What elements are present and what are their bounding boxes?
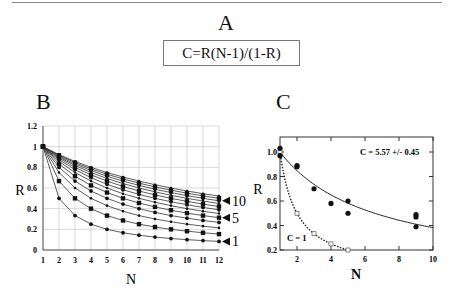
y-tick: 1.0 <box>267 148 277 157</box>
data-point <box>413 214 418 219</box>
y-tick: 0.2 <box>267 246 277 255</box>
x-axis-label: N <box>351 267 361 282</box>
data-point <box>277 146 282 151</box>
data-point <box>294 164 299 169</box>
y-tick: 0.8 <box>267 173 277 182</box>
data-point <box>345 198 350 203</box>
y-axis-label: R <box>253 182 263 197</box>
data-point <box>277 153 282 158</box>
data-point <box>311 186 316 191</box>
x-tick: 10 <box>429 255 437 264</box>
data-point <box>328 201 333 206</box>
x-tick: 6 <box>363 255 367 264</box>
data-point <box>345 211 350 216</box>
fit-line <box>280 152 433 228</box>
data-point <box>413 224 418 229</box>
x-tick: 8 <box>397 255 401 264</box>
y-tick: 0.4 <box>267 222 277 231</box>
fit-annotation: C = 5.57 +/- 0.45 <box>360 147 419 157</box>
x-tick: 2 <box>295 255 299 264</box>
x-tick: 4 <box>329 255 333 264</box>
c1-annotation: C = 1 <box>287 233 306 243</box>
chart-c: 0.20.40.60.81.0246810NRC = 5.57 +/- 0.45… <box>0 0 449 295</box>
y-tick: 0.6 <box>267 197 277 206</box>
